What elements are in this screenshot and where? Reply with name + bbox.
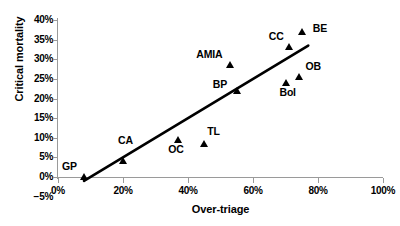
data-point-marker (298, 28, 306, 35)
y-tick-mark (53, 138, 58, 139)
x-tick-label: 0% (38, 186, 78, 196)
y-tick-label: 20% (19, 94, 53, 104)
y-tick-label: 15% (19, 113, 53, 123)
data-point-marker (200, 140, 208, 147)
data-point-marker (80, 173, 88, 180)
x-tick-mark (58, 178, 59, 183)
y-tick-label: 35% (19, 35, 53, 45)
x-tick-mark (253, 178, 254, 183)
x-tick-label: 40% (168, 186, 208, 196)
y-tick-label: 5% (19, 152, 53, 162)
data-point-label: TL (207, 126, 219, 137)
x-tick-label: 80% (298, 186, 338, 196)
y-tick-mark (53, 59, 58, 60)
data-point-marker (119, 157, 127, 164)
y-tick-mark (53, 20, 58, 21)
data-point-label: AMIA (196, 49, 222, 60)
data-point-label: OB (306, 61, 321, 72)
data-point-marker (295, 73, 303, 80)
data-point-marker (285, 43, 293, 50)
x-axis-title: Over-triage (58, 203, 383, 215)
data-point-label: CC (269, 31, 284, 42)
data-point-label: Bol (280, 87, 296, 98)
x-tick-mark (188, 178, 189, 183)
x-tick-label: 20% (103, 186, 143, 196)
data-point-marker (233, 87, 241, 94)
data-point-marker (226, 61, 234, 68)
y-tick-label: 0% (19, 172, 53, 182)
x-tick-label: 100% (363, 186, 400, 196)
data-point-label: CA (118, 135, 133, 146)
data-point-marker (174, 136, 182, 143)
data-point-label: GP (62, 161, 77, 172)
y-tick-mark (53, 40, 58, 41)
y-tick-mark (53, 157, 58, 158)
y-tick-mark (53, 118, 58, 119)
x-tick-mark (318, 178, 319, 183)
x-tick-mark (123, 178, 124, 183)
y-tick-label: 10% (19, 133, 53, 143)
y-tick-mark (53, 99, 58, 100)
data-point-label: OC (168, 144, 183, 155)
data-point-marker (282, 79, 290, 86)
x-axis-line (57, 177, 383, 178)
x-tick-label: 60% (233, 186, 273, 196)
y-tick-label: 30% (19, 54, 53, 64)
x-tick-mark (383, 178, 384, 183)
y-tick-mark (53, 79, 58, 80)
data-point-label: BP (213, 79, 227, 90)
data-point-label: BE (313, 23, 327, 34)
y-tick-label: 25% (19, 74, 53, 84)
y-tick-label: 40% (19, 15, 53, 25)
